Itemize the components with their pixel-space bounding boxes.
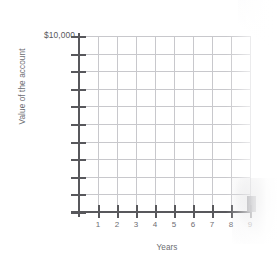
blank-grid-chart: Value of the account $10,000 123456789 Y… — [0, 0, 278, 268]
x-axis-tick-label: 3 — [128, 220, 144, 229]
y-axis-tick — [71, 194, 86, 196]
grid-line-vertical — [231, 36, 232, 212]
plot-area — [79, 36, 250, 212]
grid-line-horizontal — [79, 142, 250, 143]
y-axis-tick — [71, 124, 86, 126]
grid-line-vertical — [193, 36, 194, 212]
x-axis-tick — [193, 205, 195, 218]
grid-line-horizontal — [79, 71, 250, 72]
x-axis-tick — [136, 205, 138, 218]
grid-line-vertical — [212, 36, 213, 212]
grid-line-horizontal — [79, 36, 250, 37]
grid-line-vertical — [136, 36, 137, 212]
grid-line-vertical — [174, 36, 175, 212]
grid-line-horizontal — [79, 159, 250, 160]
x-axis-tick-label: 9 — [242, 220, 258, 229]
x-axis-tick-label: 5 — [166, 220, 182, 229]
y-max-label-container: $10,000 — [0, 36, 75, 48]
x-axis-tick-label: 7 — [204, 220, 220, 229]
x-axis-tick — [212, 205, 214, 218]
grid-line-horizontal — [79, 177, 250, 178]
y-axis-max-label: $10,000 — [44, 30, 75, 40]
x-axis-title: Years — [78, 243, 256, 252]
x-axis-tick — [98, 205, 100, 218]
grid-line-vertical — [250, 36, 251, 212]
grid-line-vertical — [155, 36, 156, 212]
grid-line-horizontal — [79, 106, 250, 107]
x-axis-tick — [155, 205, 157, 218]
x-axis-tick-label: 1 — [90, 220, 106, 229]
grid-line-horizontal — [79, 54, 250, 55]
y-axis-tick — [71, 177, 86, 179]
y-axis-tick — [71, 36, 86, 38]
x-axis-tick-label: 4 — [147, 220, 163, 229]
x-axis-tick — [117, 205, 119, 218]
y-axis-tick — [71, 89, 86, 91]
grid-line-horizontal — [79, 89, 250, 90]
y-axis-tick — [71, 54, 86, 56]
bottom-right-marker-block — [247, 196, 256, 212]
grid-line-vertical — [98, 36, 99, 212]
y-axis-tick — [71, 159, 86, 161]
x-axis-tick — [231, 205, 233, 218]
grid-line-horizontal — [79, 124, 250, 125]
x-axis-tick-label: 8 — [223, 220, 239, 229]
y-axis-tick — [71, 142, 86, 144]
y-axis-tick — [71, 106, 86, 108]
x-axis-tick-label: 2 — [109, 220, 125, 229]
x-axis-tick-label: 6 — [185, 220, 201, 229]
grid-line-horizontal — [79, 194, 250, 195]
grid-line-vertical — [117, 36, 118, 212]
y-axis-tick — [71, 71, 86, 73]
x-axis-tick — [174, 205, 176, 218]
y-axis-tick — [71, 212, 86, 214]
